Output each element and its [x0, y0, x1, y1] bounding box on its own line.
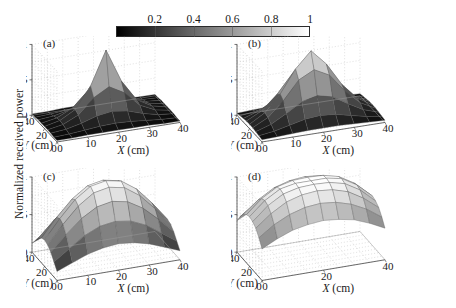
figure-container: 0.20.40.60.81 Normalized received power … [0, 0, 456, 308]
svg-text:0.5: 0.5 [26, 73, 28, 85]
surface-plot-b: 00.5101020304002040X (cm)Y (cm)(b) [231, 36, 431, 166]
x-axis-label: X (cm) [116, 282, 149, 295]
svg-text:20: 20 [321, 132, 333, 144]
surface-plot-d: 00.510204002040X (cm)Y (cm)(d) [231, 168, 431, 306]
svg-text:20: 20 [321, 270, 333, 282]
svg-text:10: 10 [290, 137, 302, 149]
surface-plot-a: 00.5101020304002040X (cm)Y (cm)(a) [26, 36, 226, 166]
y-axis-label: Y (cm) [26, 139, 53, 152]
svg-text:40: 40 [178, 122, 190, 134]
svg-text:30: 30 [147, 127, 159, 139]
panel-label: (b) [248, 37, 261, 50]
subplot-a: 00.5101020304002040X (cm)Y (cm)(a) [26, 36, 226, 166]
panel-label: (d) [248, 170, 261, 183]
subplot-d: 00.510204002040X (cm)Y (cm)(d) [231, 168, 431, 306]
svg-text:0.5: 0.5 [26, 208, 28, 220]
colorbar-tick-labels: 0.20.40.60.81 [116, 2, 310, 16]
svg-text:1: 1 [231, 38, 233, 50]
y-axis-label: Y (cm) [26, 277, 53, 290]
svg-text:40: 40 [383, 122, 395, 134]
colorbar-tick-label: 0.2 [148, 13, 162, 25]
svg-text:40: 40 [231, 115, 240, 127]
svg-text:0: 0 [262, 280, 268, 292]
svg-text:0: 0 [57, 142, 63, 154]
svg-text:30: 30 [147, 265, 159, 277]
svg-text:40: 40 [231, 252, 240, 264]
colorbar-tick-label: 0.8 [264, 13, 278, 25]
colorbar-tick-label: 0.4 [186, 13, 200, 25]
colorbar-tick-label: 1 [307, 13, 313, 25]
svg-text:0.5: 0.5 [231, 208, 233, 220]
svg-text:40: 40 [383, 260, 395, 272]
svg-text:20: 20 [116, 270, 128, 282]
subplot-c: 00.5101020304002040X (cm)Y (cm)(c) [26, 168, 226, 306]
svg-text:30: 30 [352, 127, 364, 139]
figure-ylabel: Normalized received power [13, 79, 25, 229]
svg-text:40: 40 [26, 115, 35, 127]
y-axis-label: Y (cm) [231, 277, 258, 290]
svg-text:1: 1 [26, 170, 28, 182]
svg-text:0.5: 0.5 [231, 73, 233, 85]
colorbar-tick-label: 0.6 [225, 13, 239, 25]
svg-text:1: 1 [26, 38, 28, 50]
panel-label: (a) [43, 37, 56, 50]
svg-text:40: 40 [26, 252, 35, 264]
x-axis-label: X (cm) [321, 144, 354, 157]
svg-text:20: 20 [116, 132, 128, 144]
svg-text:10: 10 [85, 275, 97, 287]
subplot-b: 00.5101020304002040X (cm)Y (cm)(b) [231, 36, 431, 166]
x-axis-label: X (cm) [116, 144, 149, 157]
svg-text:0: 0 [57, 280, 63, 292]
x-axis-label: X (cm) [321, 282, 354, 295]
svg-text:1: 1 [231, 170, 233, 182]
surface-plot-c: 00.5101020304002040X (cm)Y (cm)(c) [26, 168, 226, 306]
svg-text:0: 0 [262, 142, 268, 154]
svg-text:10: 10 [85, 137, 97, 149]
panel-label: (c) [43, 170, 56, 183]
y-axis-label: Y (cm) [231, 139, 258, 152]
svg-text:40: 40 [178, 260, 190, 272]
